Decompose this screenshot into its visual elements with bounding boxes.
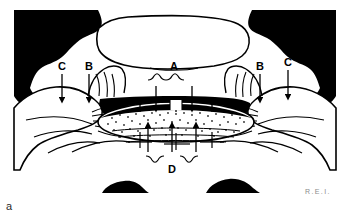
label-c-right: C [284, 56, 292, 68]
panel-letter: a [6, 200, 12, 212]
anatomical-illustration: C B A B C D [0, 0, 349, 218]
artist-credit: R.E.I. [305, 188, 331, 195]
label-a-center: A [170, 60, 178, 72]
label-b-right: B [256, 60, 264, 72]
label-b-left: B [85, 60, 93, 72]
label-d-bottom: D [168, 163, 176, 175]
label-c-left: C [58, 60, 66, 72]
central-notch [170, 100, 182, 110]
figure-container: C B A B C D a R.E.I. [0, 0, 349, 218]
